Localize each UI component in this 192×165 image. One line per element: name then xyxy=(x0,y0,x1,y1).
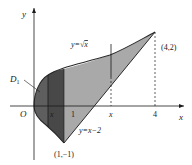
lower-curve-label: y=x−2 xyxy=(78,126,101,135)
tick-1: 1 xyxy=(71,110,75,119)
region-d1-label: D1 xyxy=(9,74,20,85)
upper-curve-prefix: y= xyxy=(70,40,80,49)
upper-curve-label: y=√x xyxy=(70,40,88,49)
origin-label: O xyxy=(20,109,27,119)
tick-4: 4 xyxy=(153,110,157,119)
d1-leader-line xyxy=(24,80,40,92)
d1-subscript: 1 xyxy=(17,79,20,85)
integration-region-diagram: y x O y=√x y=x−2 (4,2) (1,−1) x 1 x 4 D1 xyxy=(0,0,192,165)
x-axis-label: x xyxy=(178,112,183,122)
upper-curve-radicand: x xyxy=(83,40,88,49)
y-axis-arrow-icon xyxy=(32,8,36,13)
x-axis-arrow-icon xyxy=(179,104,184,108)
point-top-right-label: (4,2) xyxy=(161,43,177,52)
y-axis-label: y xyxy=(21,9,26,19)
tick-x-var-left: x xyxy=(49,110,54,119)
point-bottom-label: (1,−1) xyxy=(54,150,74,159)
tick-x-var-right: x xyxy=(108,110,113,119)
